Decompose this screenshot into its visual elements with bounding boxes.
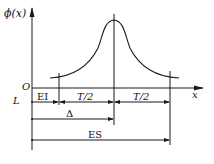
delta-label: Δ [66, 108, 73, 119]
delta-origin-dot [31, 118, 33, 120]
tolerance-distribution-diagram: ϕ(x) x O L EI T/2 T/2 Δ ES [0, 0, 214, 164]
origin-label: O [22, 81, 30, 92]
zero-line-label: L [12, 95, 20, 106]
half-tolerance-left-label: T/2 [77, 91, 93, 102]
y-axis-label: ϕ(x) [4, 7, 26, 20]
half-tolerance-right-label: T/2 [133, 91, 149, 102]
ei-label: EI [37, 91, 48, 102]
ei-origin-dot [31, 101, 33, 103]
es-origin-dot [31, 139, 33, 141]
x-axis-label: x [192, 89, 198, 100]
es-label: ES [88, 129, 102, 140]
